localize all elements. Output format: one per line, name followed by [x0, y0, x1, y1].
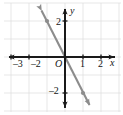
x-tick-label-neg3: –3 [13, 59, 23, 69]
line-point-marker [45, 19, 49, 23]
y-tick-label-neg2: –2 [49, 86, 59, 96]
y-axis-label: y [70, 6, 74, 16]
coordinate-graph-figure: –3 –2 O 1 2 x 2 –2 y [0, 0, 123, 115]
x-tick-label-neg2: –2 [31, 59, 41, 69]
line-point-marker [81, 91, 85, 95]
y-tick-label-2: 2 [56, 17, 61, 27]
x-tick-label-2: 2 [98, 59, 103, 69]
x-axis-label: x [110, 58, 114, 68]
origin-label: O [55, 59, 62, 69]
x-tick-label-1: 1 [80, 59, 85, 69]
